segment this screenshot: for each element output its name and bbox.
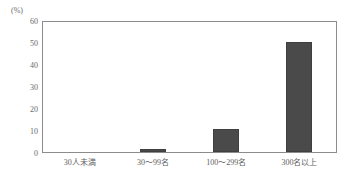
bar-value (286, 42, 312, 153)
bar-slot (190, 22, 263, 152)
x-axis: 30人未満 30～99名 100～299名 300名以上 (43, 158, 336, 168)
y-axis-tick: 0 (34, 149, 38, 158)
bar-slot (43, 22, 116, 152)
y-axis-tick: 10 (30, 126, 38, 135)
y-axis-tick: 60 (30, 17, 38, 26)
bar-value (213, 129, 239, 152)
x-axis-category-label: 300名以上 (263, 158, 336, 168)
y-axis-tick: 40 (30, 60, 38, 69)
y-axis-unit-label: (%) (11, 6, 23, 15)
bar-slot (263, 22, 336, 152)
x-axis-category-label: 30人未満 (43, 158, 116, 168)
bar-value (140, 149, 166, 152)
y-axis-tick: 30 (30, 83, 38, 92)
x-axis-category-label: 30～99名 (116, 158, 189, 168)
bar-chart: (%) 60 50 40 30 20 10 0 30人未満 30～99名 100… (0, 0, 350, 190)
bar-slot (116, 22, 189, 152)
bars-layer (43, 22, 336, 152)
x-axis-category-label: 100～299名 (190, 158, 263, 168)
y-axis: 60 50 40 30 20 10 0 (0, 21, 38, 153)
y-axis-tick: 20 (30, 105, 38, 114)
y-axis-tick: 50 (30, 39, 38, 48)
